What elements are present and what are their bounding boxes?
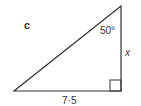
part-label: c (24, 19, 30, 31)
base-label: 7·5 (62, 95, 77, 106)
right-angle-marker (110, 80, 121, 91)
side-x-label: x (124, 47, 131, 58)
triangle-diagram: c 50° x 7·5 (0, 0, 141, 106)
angle-label: 50° (100, 25, 115, 36)
